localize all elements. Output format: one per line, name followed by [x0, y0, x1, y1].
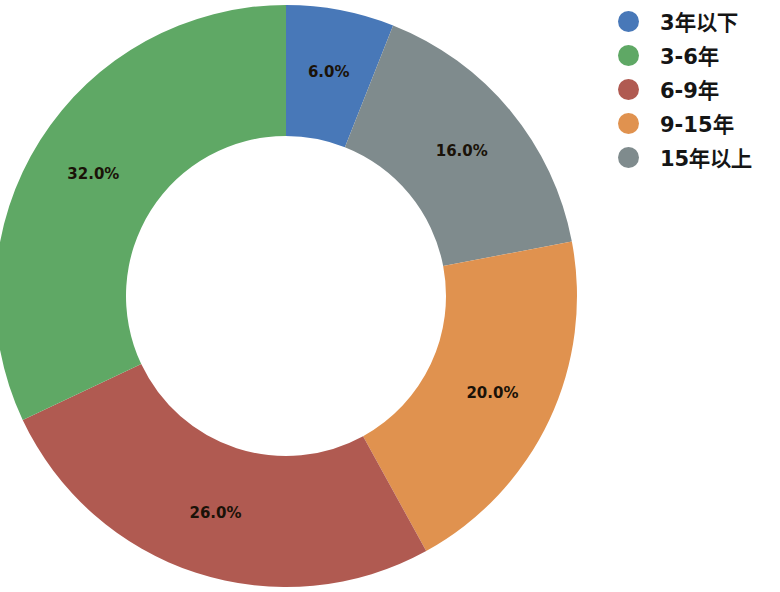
legend-item-3-6nian[interactable]: 3-6年: [618, 42, 780, 68]
legend-label: 15年以上: [660, 142, 752, 172]
donut-slice-label: 26.0%: [189, 504, 241, 522]
legend-item-9-15nian[interactable]: 9-15年: [618, 110, 780, 136]
donut-chart-svg: 6.0%16.0%20.0%26.0%32.0%: [0, 0, 600, 592]
donut-slice-label: 32.0%: [67, 165, 119, 183]
legend-label: 3-6年: [660, 40, 719, 70]
chart-legend: 3年以下 3-6年 6-9年 9-15年 15年以上: [618, 8, 780, 170]
legend-label: 3年以下: [660, 6, 738, 36]
donut-slices: [0, 5, 577, 587]
legend-item-6-9nian[interactable]: 6-9年: [618, 76, 780, 102]
legend-color-swatch-icon: [618, 147, 639, 168]
legend-label: 9-15年: [660, 108, 734, 138]
legend-color-swatch-icon: [618, 11, 639, 32]
donut-slice[interactable]: [0, 5, 286, 420]
legend-color-swatch-icon: [618, 113, 639, 134]
legend-color-swatch-icon: [618, 79, 639, 100]
legend-label: 6-9年: [660, 74, 719, 104]
donut-slice-label: 16.0%: [436, 142, 488, 160]
donut-chart: 6.0%16.0%20.0%26.0%32.0%: [0, 0, 600, 592]
legend-color-swatch-icon: [618, 45, 639, 66]
donut-slice-label: 20.0%: [466, 384, 518, 402]
donut-slice[interactable]: [23, 364, 426, 587]
donut-slice-label: 6.0%: [308, 63, 350, 81]
legend-item-15nian-yishang[interactable]: 15年以上: [618, 144, 780, 170]
chart-page: 6.0%16.0%20.0%26.0%32.0% 3年以下 3-6年 6-9年 …: [0, 0, 780, 592]
legend-item-3nian-yixia[interactable]: 3年以下: [618, 8, 780, 34]
